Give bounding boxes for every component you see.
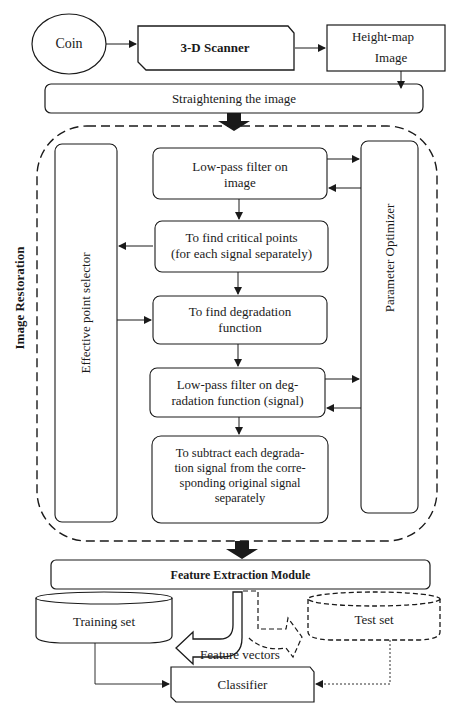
step-5-line2: tion signal from the corre- (152, 461, 328, 476)
scanner-label: 3-D Scanner (140, 40, 290, 56)
image-restoration-label: Image Restoration (12, 238, 28, 358)
step-5-line1: To subtract each degrada- (152, 446, 328, 461)
step-1-line1: Low-pass filter on (153, 159, 327, 175)
heightmap-label-line1: Height-map (327, 29, 439, 45)
step-3-line1: To find degradation (153, 304, 327, 320)
arrow-training-classifier (95, 643, 169, 684)
step-5-line3: sponding original signal (152, 476, 328, 491)
parameter-optimizer-node (361, 141, 418, 513)
step-3-line2: function (153, 320, 327, 336)
step-1-line2: image (153, 175, 327, 191)
diagram-canvas (0, 0, 460, 717)
step-2-label: To find critical points (for each signal… (155, 230, 328, 262)
step-5-label: To subtract each degrada- tion signal fr… (152, 446, 328, 506)
step-5-line4: separately (152, 491, 328, 506)
step-2-line1: To find critical points (155, 230, 328, 246)
step-4-label: Low-pass filter on deg- radation functio… (150, 377, 325, 409)
block-arrow-1 (218, 113, 250, 131)
classifier-label: Classifier (171, 677, 314, 693)
step-3-label: To find degradation function (153, 304, 327, 336)
step-1-label: Low-pass filter on image (153, 159, 327, 191)
step-2-line2: (for each signal separately) (155, 246, 328, 262)
step-4-line1: Low-pass filter on deg- (150, 377, 325, 393)
effective-point-selector-label: Effective point selector (78, 243, 94, 383)
arrow-test-classifier (316, 640, 390, 684)
block-arrow-2 (226, 541, 258, 559)
training-set-label: Training set (36, 614, 172, 630)
step-4-line2: radation function (signal) (150, 393, 325, 409)
heightmap-label-line2: Image (335, 50, 447, 66)
parameter-optimizer-label: Parameter Optimizer (382, 198, 398, 318)
coin-label: Coin (32, 36, 106, 52)
feature-extraction-label: Feature Extraction Module (51, 567, 430, 583)
straighten-label: Straightening the image (45, 91, 423, 107)
feature-vectors-label: Feature vectors (190, 647, 290, 663)
test-set-label: Test set (308, 612, 440, 628)
